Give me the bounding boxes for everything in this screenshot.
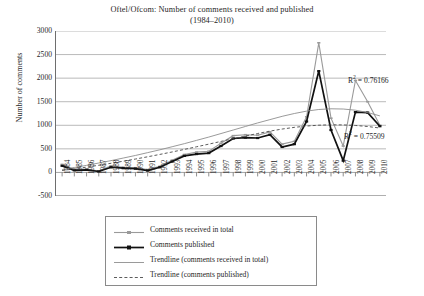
chart-legend: Comments received in totalComments publi… bbox=[105, 216, 317, 286]
x-tick-label: 1993 bbox=[174, 160, 182, 174]
x-tick-label: 2003 bbox=[296, 160, 304, 174]
legend-swatch-icon bbox=[113, 224, 145, 235]
legend-label: Comments published bbox=[150, 240, 214, 249]
x-tick-label: 1995 bbox=[198, 160, 206, 174]
legend-swatch-icon bbox=[113, 269, 145, 280]
x-tick-label: 2002 bbox=[284, 160, 292, 174]
chart-title-line1: Oftel/Ofcom: Number of comments received… bbox=[40, 4, 384, 15]
x-axis-ticks: 1984198519861987198819891990199119921993… bbox=[55, 174, 385, 204]
y-tick-label: 500 bbox=[18, 144, 52, 153]
x-tick-label: 1997 bbox=[223, 160, 231, 174]
y-axis-ticks: 300025002000150010005000-500 bbox=[14, 0, 52, 296]
r2-annotation-published: R2 = 0.75509 bbox=[344, 130, 385, 141]
r2-annotation-received: R2 = 0.76166 bbox=[348, 74, 389, 85]
x-tick-label: 2004 bbox=[308, 160, 316, 174]
legend-label: Comments received in total bbox=[150, 225, 234, 234]
x-tick-label: 1999 bbox=[247, 160, 255, 174]
legend-label: Trendline (comments published) bbox=[150, 270, 249, 279]
x-tick-label: 2005 bbox=[320, 160, 328, 174]
x-tick-label: 1985 bbox=[76, 160, 84, 174]
x-tick-label: 1984 bbox=[64, 160, 72, 174]
chart-title: Oftel/Ofcom: Number of comments received… bbox=[40, 4, 384, 26]
legend-item[interactable]: Trendline (comments received in total) bbox=[106, 252, 316, 267]
legend-swatch-icon bbox=[113, 254, 145, 265]
y-tick-label: 1500 bbox=[18, 97, 52, 106]
y-tick-label: -500 bbox=[18, 191, 52, 200]
legend-swatch-icon bbox=[113, 239, 145, 250]
series-line bbox=[62, 43, 380, 171]
x-tick-label: 2008 bbox=[357, 160, 365, 174]
x-tick-label: 1988 bbox=[113, 160, 121, 174]
legend-item[interactable]: Comments received in total bbox=[106, 222, 316, 237]
x-tick-label: 1992 bbox=[161, 160, 169, 174]
y-tick-label: 3000 bbox=[18, 26, 52, 35]
legend-item[interactable]: Trendline (comments published) bbox=[106, 267, 316, 282]
x-tick-label: 2009 bbox=[369, 160, 377, 174]
x-tick-label: 1989 bbox=[125, 160, 133, 174]
x-tick-label: 1986 bbox=[88, 160, 96, 174]
legend-label: Trendline (comments received in total) bbox=[150, 255, 268, 264]
chart-title-line2: (1984–2010) bbox=[40, 15, 384, 26]
y-tick-label: 2500 bbox=[18, 50, 52, 59]
chart-figure: Oftel/Ofcom: Number of comments received… bbox=[0, 0, 424, 296]
x-tick-label: 1994 bbox=[186, 160, 194, 174]
y-tick-label: 2000 bbox=[18, 73, 52, 82]
x-tick-label: 1990 bbox=[137, 160, 145, 174]
legend-item[interactable]: Comments published bbox=[106, 237, 316, 252]
x-tick-label: 1991 bbox=[149, 160, 157, 174]
x-tick-label: 2000 bbox=[259, 160, 267, 174]
x-tick-label: 2007 bbox=[345, 160, 353, 174]
x-tick-label: 2001 bbox=[271, 160, 279, 174]
x-tick-label: 1987 bbox=[100, 160, 108, 174]
y-tick-label: 0 bbox=[18, 167, 52, 176]
x-tick-label: 1998 bbox=[235, 160, 243, 174]
y-tick-label: 1000 bbox=[18, 120, 52, 129]
x-tick-label: 1996 bbox=[210, 160, 218, 174]
x-tick-label: 2010 bbox=[381, 160, 389, 174]
x-tick-label: 2006 bbox=[333, 160, 341, 174]
